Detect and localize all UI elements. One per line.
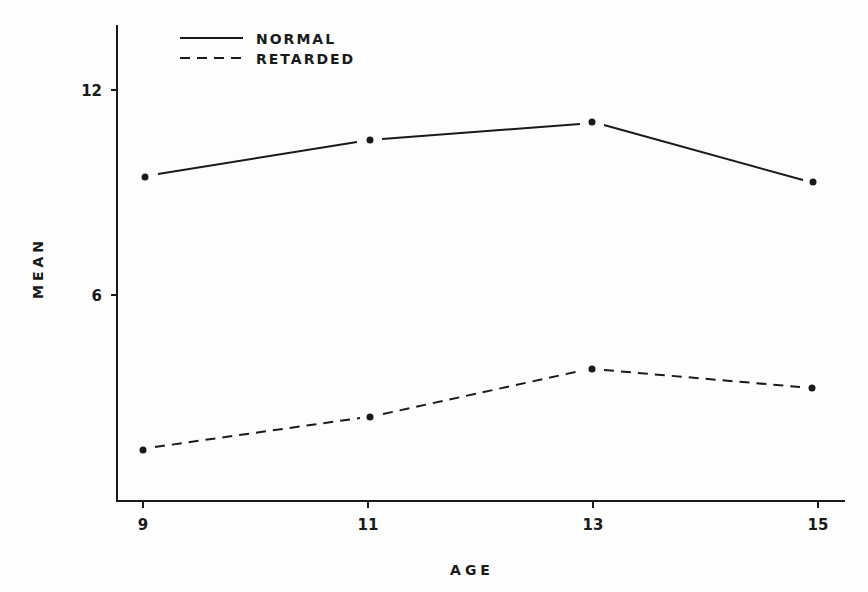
x-tick-13: 13	[583, 516, 604, 534]
legend: NORMAL RETARDED	[180, 31, 355, 67]
x-tick-9: 9	[138, 516, 148, 534]
x-tick-11: 11	[358, 516, 379, 534]
y-tick-12: 12	[81, 82, 102, 100]
series-normal	[142, 119, 817, 186]
x-axis-label: AGE	[450, 562, 494, 578]
line-chart: 12 6 MEAN 9 11 13 15 AGE NORMAL RETARDED	[0, 0, 868, 592]
legend-retarded: RETARDED	[256, 51, 355, 67]
y-tick-6: 6	[92, 287, 102, 305]
y-axis-label: MEAN	[30, 237, 46, 299]
legend-normal: NORMAL	[256, 31, 336, 47]
x-axis: 9 11 13 15 AGE	[116, 501, 845, 578]
series-retarded	[140, 366, 816, 454]
x-tick-15: 15	[808, 516, 829, 534]
y-axis: 12 6 MEAN	[30, 25, 117, 501]
